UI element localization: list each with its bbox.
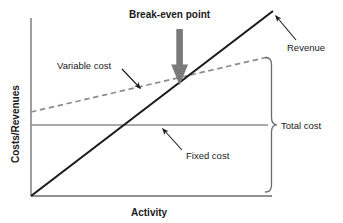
variable-cost-annotation: Variable cost [57,60,141,89]
revenue-annotation: Revenue [276,16,326,54]
fixed-cost-label: Fixed cost [186,150,230,161]
break-even-chart-figure: Break-even point Revenue Variable cost F… [0,0,343,223]
revenue-leader-line [276,16,297,41]
fixed-cost-annotation: Fixed cost [163,129,230,162]
x-axis-title: Activity [131,207,168,218]
break-even-annotation: Break-even point [129,9,211,85]
y-axis-title: Costs/Revenues [10,85,21,163]
revenue-label: Revenue [287,42,325,53]
chart-canvas: Break-even point Revenue Variable cost F… [0,0,343,223]
break-even-point-label: Break-even point [129,9,211,20]
variable-cost-label: Variable cost [57,60,112,71]
total-cost-annotation: Total cost [266,58,322,193]
total-cost-label: Total cost [281,120,321,131]
variable-cost-leader-line [122,69,141,89]
fixed-cost-leader-line [163,129,183,151]
